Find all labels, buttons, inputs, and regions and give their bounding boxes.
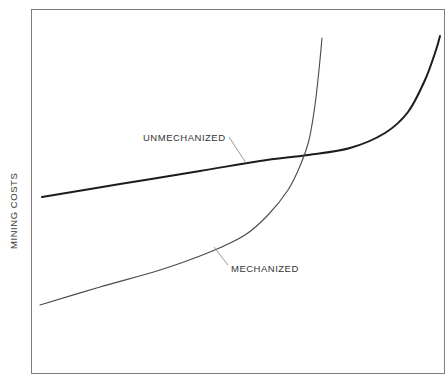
y-axis-label: MINING COSTS [8, 173, 19, 249]
chart-figure: UNMECHANIZED MECHANIZED MINING COSTS [0, 0, 448, 377]
mechanized-series-label: MECHANIZED [231, 263, 299, 274]
mining-costs-line-chart: UNMECHANIZED MECHANIZED MINING COSTS [0, 0, 448, 377]
unmechanized-series-label: UNMECHANIZED [143, 132, 226, 143]
chart-background [0, 0, 448, 377]
